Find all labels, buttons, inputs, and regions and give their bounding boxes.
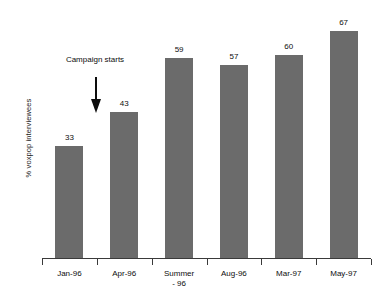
x-axis-tick: [261, 259, 262, 265]
bar: [220, 65, 248, 258]
bar-value-label: 43: [104, 99, 144, 109]
bar-value-label: 57: [214, 52, 254, 62]
x-axis-tick: [97, 259, 98, 265]
bar-chart: % voxpop interviewees 334359576067 Jan-9…: [0, 0, 384, 299]
bar: [165, 58, 193, 258]
x-axis-tick: [42, 259, 43, 265]
bar: [330, 31, 358, 258]
x-axis-tick: [371, 259, 372, 265]
bar-value-label: 60: [269, 42, 309, 52]
x-axis-tick-label: Aug-96: [206, 269, 262, 279]
x-axis-tick-label: Jan-96: [41, 269, 97, 279]
x-axis-tick-label: Apr-96: [96, 269, 152, 279]
y-axis-title: % voxpop interviewees: [22, 48, 36, 228]
bar: [275, 55, 303, 258]
arrow-down-icon: [89, 76, 103, 114]
annotation-label: Campaign starts: [55, 55, 135, 65]
bar-value-label: 67: [324, 18, 364, 28]
bar: [110, 112, 138, 258]
x-axis-tick: [207, 259, 208, 265]
x-axis-tick-label: Mar-97: [261, 269, 317, 279]
x-axis-tick-label: May-97: [316, 269, 372, 279]
bar: [55, 146, 83, 258]
bar-value-label: 59: [159, 45, 199, 55]
x-axis-tick: [316, 259, 317, 265]
bar-value-label: 33: [49, 133, 89, 143]
x-axis-tick-label: Summer - 96: [151, 269, 207, 289]
x-axis-tick: [152, 259, 153, 265]
